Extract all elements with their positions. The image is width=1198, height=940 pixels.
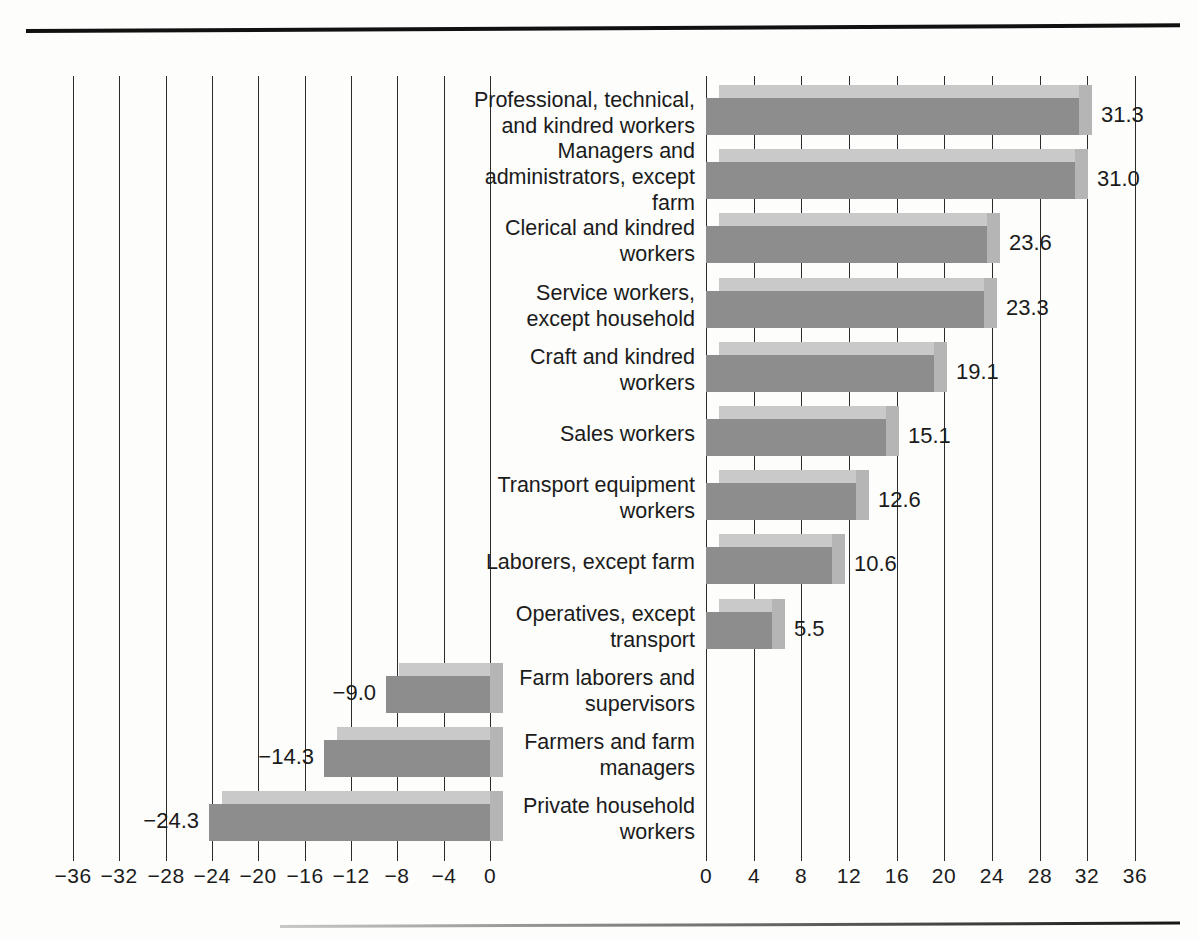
axis-tick-left--8 <box>397 848 398 861</box>
category-label: Laborers, except farm <box>470 549 695 575</box>
bar-front-face <box>324 740 490 777</box>
axis-tick-left--36 <box>73 848 74 861</box>
bar-side-face <box>984 278 997 328</box>
axis-tick-right-4 <box>754 848 755 861</box>
bar-top-face <box>719 149 1088 162</box>
axis-tick-label-right-36: 36 <box>1105 864 1165 888</box>
axis-tick-right-36 <box>1135 848 1136 861</box>
bar-front-face <box>706 162 1075 199</box>
category-label: Clerical and kindred workers <box>470 215 695 267</box>
bar-front-face <box>706 419 886 456</box>
bar-side-face <box>832 534 845 584</box>
category-label: Managers and administrators, except farm <box>470 138 695 216</box>
bar-top-face <box>719 534 845 547</box>
axis-tick-left--24 <box>212 848 213 861</box>
bar-side-face <box>856 470 869 520</box>
axis-tick-right-12 <box>849 848 850 861</box>
bar-front-face <box>706 483 856 520</box>
bar-side-face <box>886 406 899 456</box>
bar-top-face <box>719 213 1000 226</box>
gridline-left--20 <box>258 76 259 848</box>
axis-tick-right-16 <box>897 848 898 861</box>
axis-tick-left--20 <box>258 848 259 861</box>
bar-top-face <box>719 278 997 291</box>
bar-value-label: 23.3 <box>1006 295 1049 321</box>
category-label: Operatives, except transport <box>470 601 695 653</box>
bar-front-face <box>706 355 934 392</box>
bar-value-label: 15.1 <box>908 423 951 449</box>
bar-side-face <box>772 599 785 649</box>
bar-value-label: 31.3 <box>1101 102 1144 128</box>
bar-value-label: −14.3 <box>0 744 314 770</box>
gridline-left--16 <box>305 76 306 848</box>
bar-top-face <box>719 406 899 419</box>
bar-side-face <box>1075 149 1088 199</box>
category-label: Transport equipment workers <box>470 472 695 524</box>
gridline-left--32 <box>119 76 120 848</box>
axis-tick-left--16 <box>305 848 306 861</box>
category-label: Craft and kindred workers <box>470 344 695 396</box>
bar-value-label: 5.5 <box>794 616 825 642</box>
chart-page: −36−32−28−24−20−16−12−8−4004812162024283… <box>0 0 1198 940</box>
axis-tick-left--28 <box>166 848 167 861</box>
bar-front-face <box>706 226 987 263</box>
bar-value-label: −9.0 <box>0 680 376 706</box>
axis-tick-left--32 <box>119 848 120 861</box>
axis-tick-left--4 <box>444 848 445 861</box>
axis-tick-right-28 <box>1040 848 1041 861</box>
bar-top-face <box>719 85 1092 98</box>
bar-value-label: 12.6 <box>878 487 921 513</box>
category-label: Farmers and farm managers <box>470 729 695 781</box>
bar-top-face <box>719 342 947 355</box>
bar-value-label: 10.6 <box>854 551 897 577</box>
axis-tick-right-32 <box>1087 848 1088 861</box>
bar-value-label: 31.0 <box>1097 166 1140 192</box>
bar-front-face <box>209 804 490 841</box>
axis-tick-label-left-0: 0 <box>460 864 520 888</box>
category-label: Farm laborers and supervisors <box>470 665 695 717</box>
bar-side-face <box>1079 85 1092 135</box>
axis-tick-right-8 <box>801 848 802 861</box>
axis-tick-right-20 <box>944 848 945 861</box>
bar-value-label: 19.1 <box>956 359 999 385</box>
category-label: Sales workers <box>470 421 695 447</box>
bar-front-face <box>706 291 984 328</box>
category-label: Professional, technical, and kindred wor… <box>470 87 695 139</box>
category-label: Service workers, except household <box>470 280 695 332</box>
bar-side-face <box>934 342 947 392</box>
axis-tick-left--12 <box>351 848 352 861</box>
category-label: Private household workers <box>470 793 695 845</box>
bar-top-face <box>719 470 869 483</box>
axis-tick-right-0 <box>706 848 707 861</box>
gridline-left--36 <box>73 76 74 848</box>
chart-plot-area: −36−32−28−24−20−16−12−8−4004812162024283… <box>0 0 1198 940</box>
bar-top-face <box>222 791 503 804</box>
bar-front-face <box>706 612 772 649</box>
bar-value-label: 23.6 <box>1009 230 1052 256</box>
bar-value-label: −24.3 <box>0 808 199 834</box>
bar-side-face <box>987 213 1000 263</box>
bar-front-face <box>706 98 1079 135</box>
axis-tick-left-0 <box>490 848 491 861</box>
axis-tick-right-24 <box>992 848 993 861</box>
gridline-left--28 <box>166 76 167 848</box>
gridline-left--24 <box>212 76 213 848</box>
bar-front-face <box>706 547 832 584</box>
